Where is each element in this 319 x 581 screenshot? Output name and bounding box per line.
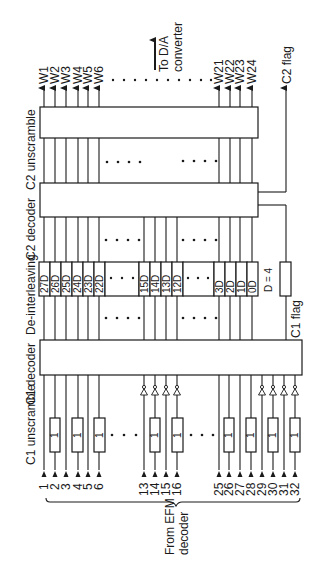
unscramble-ellipsis <box>111 434 215 437</box>
from-efm-label: From EFM <box>163 498 177 555</box>
c2-unscramble-label: C2 unscramble <box>24 109 38 190</box>
output-label-w24: W24 <box>245 59 259 84</box>
delay-26d: 26D <box>50 275 61 293</box>
post-deinterleave-lines <box>44 296 252 340</box>
delay-12d: 12D <box>172 275 183 293</box>
delay-one-label: 1 <box>172 432 183 438</box>
output-ellipsis-top <box>112 79 212 81</box>
delay-25d: 25D <box>61 275 72 293</box>
c1-flag-label: C1 flag <box>289 300 303 338</box>
output-label-w6: W6 <box>92 66 106 84</box>
c1-decoder-block <box>40 340 302 375</box>
c2-internal-lines <box>44 138 252 183</box>
delay-23d: 23D <box>83 275 94 293</box>
c1-unscramble-label: C1 unscramble <box>24 384 38 465</box>
delay-one-label: 1 <box>289 432 300 438</box>
delay-one-label: 1 <box>267 432 278 438</box>
pre-deinterleave-lines <box>44 217 252 262</box>
delay-param-label: D = 4 <box>263 267 274 292</box>
input-label-6: 6 <box>92 483 106 490</box>
c2-flag-label: C2 flag <box>280 46 294 84</box>
delay-one-label: 1 <box>72 432 83 438</box>
input-label-16: 16 <box>170 482 184 496</box>
delay-one-label: 1 <box>94 432 105 438</box>
input-labels: 1 2 3 4 5 6 13 14 15 16 25 26 27 28 29 3… <box>37 482 302 496</box>
delay-3d: 3D <box>214 280 225 293</box>
delay-13d: 13D <box>161 275 172 293</box>
delay-15d: 15D <box>139 275 150 293</box>
delay-1d: 1D <box>236 280 247 293</box>
to-da-label: To D/A <box>157 36 171 72</box>
c2-unscramble-block <box>40 107 258 138</box>
output-labels-right: W21 W22 W23 W24 <box>212 59 259 84</box>
c1-flag-delay-block <box>280 262 291 296</box>
delay-27d: 27D <box>39 275 50 293</box>
deinterleaving-label: De-interleaving <box>24 254 38 335</box>
output-arrows-right <box>219 88 252 107</box>
delay-24d: 24D <box>72 275 83 293</box>
delay-one-label: 1 <box>223 432 234 438</box>
decoder-label: decoder <box>177 512 191 555</box>
delay-one-label: 1 <box>245 432 256 438</box>
delay-22d: 22D <box>94 275 105 293</box>
c2-decoder-block <box>40 183 258 217</box>
delay-14d: 14D <box>150 275 161 293</box>
delay-2d: 2D <box>225 280 236 293</box>
converter-label: converter <box>171 22 185 72</box>
circ-decoder-diagram: W1 W2 W3 W4 W5 W6 To D/A converter W21 W… <box>0 0 319 581</box>
input-arrow-icons <box>42 471 298 477</box>
input-label-32: 32 <box>288 482 302 496</box>
delay-0d: 0D <box>247 280 258 293</box>
c2-decoder-label: C2 decoder <box>24 198 38 260</box>
delay-one-label: 1 <box>149 432 160 438</box>
output-arrows-left <box>44 88 99 107</box>
output-labels-left: W1 W2 W3 W4 W5 W6 <box>37 66 106 84</box>
delay-one-label: 1 <box>49 432 60 438</box>
